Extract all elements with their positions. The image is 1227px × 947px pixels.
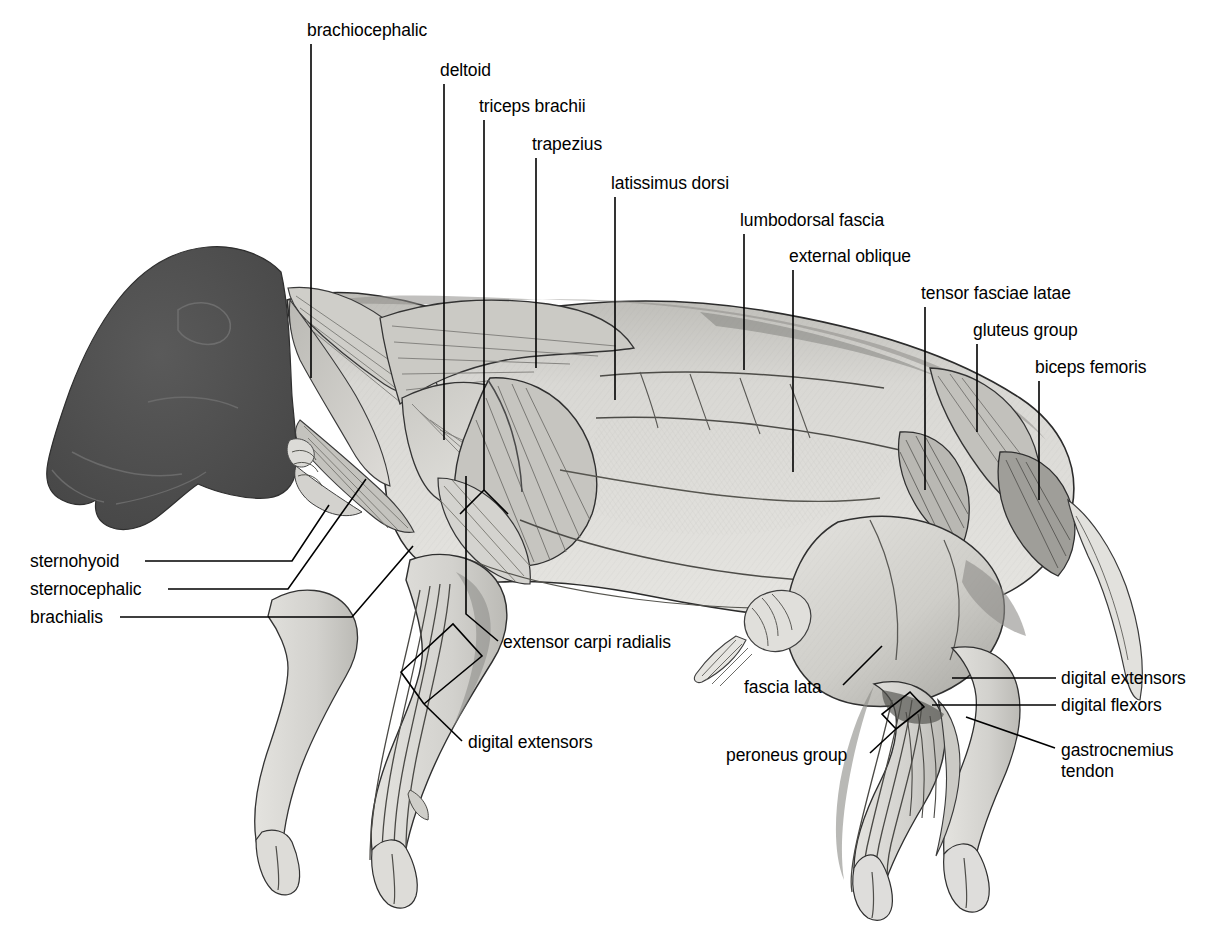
label-lumbodorsal-fascia: lumbodorsal fascia [740,212,884,230]
label-gluteus-group: gluteus group [973,322,1078,340]
label-tensor-fasciae-latae: tensor fasciae latae [921,285,1071,303]
pig-musculature-illustration [0,0,1227,947]
label-biceps-femoris: biceps femoris [1035,359,1146,377]
label-sternocephalic: sternocephalic [30,581,141,599]
label-latissimus-dorsi: latissimus dorsi [611,175,729,193]
label-sternohyoid: sternohyoid [30,553,119,571]
label-peroneus-group: peroneus group [726,747,847,765]
label-trapezius: trapezius [532,136,602,154]
label-fascia-lata: fascia lata [744,679,822,697]
label-extensor-carpi-radialis: extensor carpi radialis [503,634,671,652]
leader-sternohyoid [145,505,329,561]
label-triceps-brachii: triceps brachii [479,98,585,116]
label-digital-flexors: digital flexors [1061,697,1162,715]
label-deltoid: deltoid [440,62,491,80]
forelimb-posterior [255,590,358,863]
label-brachialis: brachialis [30,609,103,627]
label-brachiocephalic: brachiocephalic [307,22,427,40]
head-silhouette [47,247,297,530]
anatomical-figure: brachiocephalic deltoid triceps brachii … [0,0,1227,947]
label-external-oblique: external oblique [789,248,911,266]
label-digital-extensors-hind: digital extensors [1061,670,1186,688]
leader-brachialis [120,546,413,617]
head-group [47,247,297,530]
label-gastrocnemius-tendon: gastrocnemius tendon [1061,740,1174,783]
label-digital-extensors-fore: digital extensors [468,734,593,752]
